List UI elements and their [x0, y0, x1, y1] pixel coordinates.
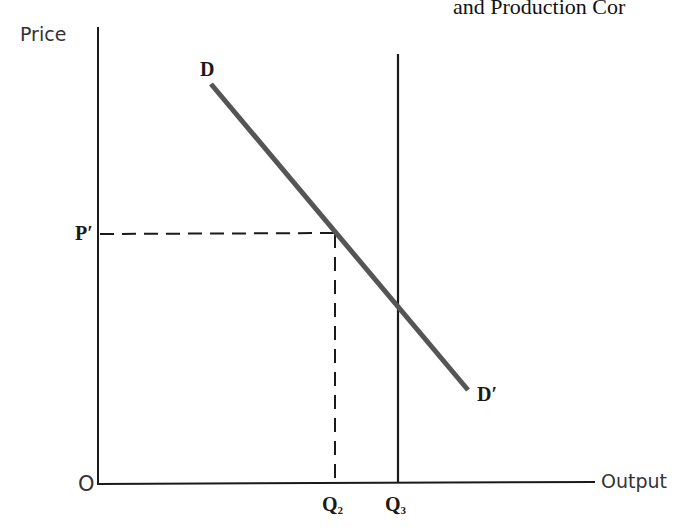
q3-label: Q3 [385, 493, 406, 516]
demand-label-d: D [200, 58, 214, 81]
q3-label-main: Q [385, 493, 401, 515]
demand-diagram [0, 0, 691, 527]
x-axis-label: Output [601, 470, 667, 492]
q2-label-sub: 2 [338, 504, 344, 516]
demand-curve [211, 84, 468, 390]
price-guide-dashed [100, 233, 334, 234]
q2-label: Q2 [322, 493, 343, 516]
q3-label-sub: 3 [401, 504, 407, 516]
origin-label: O [78, 472, 95, 496]
y-axis-label: Price [20, 23, 66, 45]
price-label-p-prime: P′ [75, 222, 93, 245]
q2-label-main: Q [322, 493, 338, 515]
demand-label-d-prime: D′ [477, 383, 497, 406]
x-axis [97, 482, 595, 484]
